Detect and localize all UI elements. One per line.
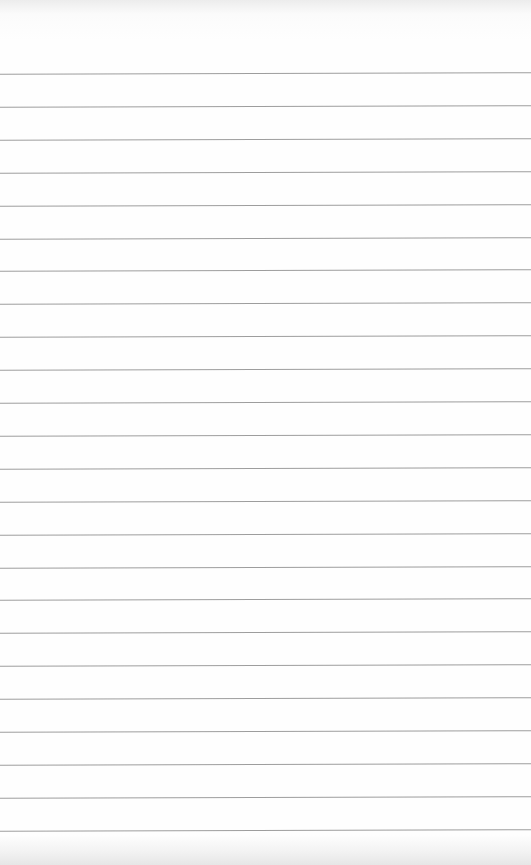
ruled-line	[0, 171, 531, 173]
ruled-line	[0, 467, 531, 469]
ruled-line	[0, 269, 531, 271]
ruled-line	[0, 796, 531, 798]
ruled-line	[0, 500, 531, 502]
ruled-paper-sheet	[0, 0, 531, 865]
ruled-line	[0, 237, 531, 239]
ruled-line	[0, 335, 531, 337]
ruled-line	[0, 302, 531, 304]
ruled-line	[0, 697, 531, 699]
ruled-line	[0, 763, 531, 765]
ruled-line	[0, 598, 531, 600]
ruled-line	[0, 434, 531, 436]
ruled-line	[0, 533, 531, 535]
ruled-line	[0, 730, 531, 732]
ruled-line	[0, 631, 531, 633]
ruled-line	[0, 105, 531, 107]
ruled-line	[0, 72, 531, 74]
ruled-line	[0, 566, 531, 568]
ruled-line	[0, 401, 531, 403]
ruled-line	[0, 368, 531, 370]
ruled-line	[0, 204, 531, 206]
ruled-line	[0, 829, 531, 831]
ruled-line	[0, 138, 531, 140]
ruled-line	[0, 664, 531, 666]
